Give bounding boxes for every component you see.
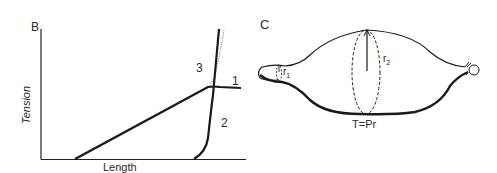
curve-3: [77, 30, 224, 159]
balloon-diagram: [258, 30, 479, 114]
r1-subscript: 1: [286, 72, 290, 79]
panel-c-label: C: [260, 18, 269, 31]
y-axis-label: Tension: [20, 85, 32, 125]
curve-3-label: 3: [196, 62, 203, 74]
panel-b-label: B: [31, 21, 39, 33]
r2-label: r2: [383, 54, 390, 66]
r1-label: r1: [283, 67, 290, 79]
r2-subscript: 2: [386, 59, 390, 66]
curve-1: [75, 87, 241, 160]
panel-b-axes: [41, 29, 246, 160]
curve-1-label: 1: [232, 75, 239, 87]
figure-canvas: [0, 0, 497, 173]
x-axis-label: Length: [103, 162, 137, 173]
equation-label: T=Pr: [352, 119, 376, 130]
curve-2: [194, 29, 219, 159]
curve-2-label: 2: [221, 117, 228, 129]
